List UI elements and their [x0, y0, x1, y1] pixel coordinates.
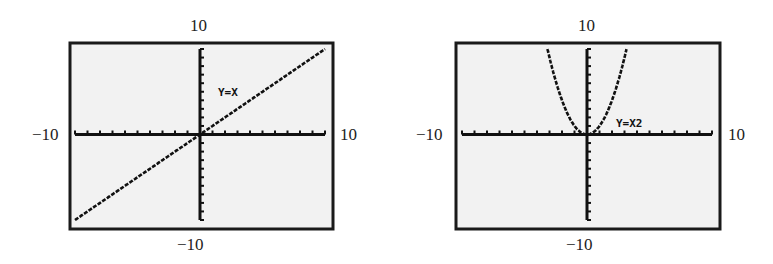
xmax-label: 10: [728, 126, 745, 143]
graph-panel-quadratic: Y=X2 10 −10 −10 10: [386, 0, 772, 264]
xmax-label: 10: [340, 126, 357, 143]
ymax-label: 10: [578, 17, 595, 34]
equation-label: Y=X2: [616, 117, 643, 130]
ymin-label: −10: [566, 236, 593, 253]
xmin-label: −10: [416, 126, 443, 143]
equation-label: Y=X: [218, 86, 238, 99]
ymin-label: −10: [177, 236, 204, 253]
ymax-label: 10: [190, 17, 207, 34]
graph-panel-linear: Y=X 10 −10 −10 10: [0, 0, 386, 264]
xmin-label: −10: [32, 126, 59, 143]
calculator-screen-quadratic: Y=X2: [386, 0, 772, 264]
